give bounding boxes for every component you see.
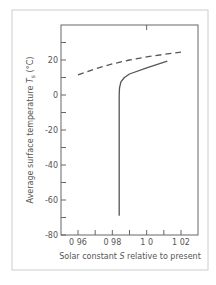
series-dashed-line bbox=[78, 52, 181, 75]
y-tick-label: -80 bbox=[45, 231, 58, 240]
y-tick-label: -20 bbox=[45, 126, 58, 135]
x-tick-label: 1 02 bbox=[172, 238, 190, 247]
y-axis-label: Average surface temperature Ts (°C) bbox=[26, 57, 36, 204]
x-tick-label: 0 98 bbox=[103, 238, 121, 247]
outer-border bbox=[12, 10, 208, 270]
x-tick-label: 0 96 bbox=[69, 238, 87, 247]
y-tick-label: -60 bbox=[45, 196, 58, 205]
plot-frame bbox=[61, 25, 198, 235]
y-tick-label: 20 bbox=[48, 56, 58, 65]
series-layer bbox=[78, 52, 181, 216]
chart-figure: 0 960 981 01 02-80-60-40-20020 Solar con… bbox=[0, 0, 216, 285]
axes: 0 960 981 01 02-80-60-40-20020 bbox=[45, 25, 198, 247]
x-axis-label: Solar constant S relative to present bbox=[59, 252, 201, 261]
chart-canvas: 0 960 981 01 02-80-60-40-20020 Solar con… bbox=[0, 0, 216, 285]
y-tick-label: 0 bbox=[53, 91, 58, 100]
y-tick-label: -40 bbox=[45, 161, 58, 170]
series-solid-line bbox=[119, 61, 167, 216]
x-tick-label: 1 0 bbox=[140, 238, 153, 247]
